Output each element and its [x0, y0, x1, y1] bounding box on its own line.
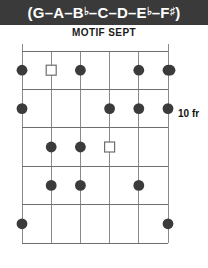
note-dot-s1-f2	[17, 103, 28, 114]
note-dot-s3-f4	[75, 180, 86, 191]
note-dot-s3-f1	[75, 65, 86, 76]
header-bar: (G–A–B♭–C–D–E♭–F♯)	[0, 0, 208, 25]
note-dot-s2-f3	[46, 142, 57, 153]
accidental-sharp: ♯	[170, 5, 176, 17]
fretboard-diagram: 10 fr	[0, 44, 208, 268]
note-dot-s2-f4	[46, 180, 57, 191]
fretboard-svg	[0, 44, 208, 268]
page-title: MOTIF SEPT	[0, 27, 208, 38]
position-marker-dot	[165, 65, 176, 76]
note-dot-s6-f2	[163, 103, 174, 114]
fretboard-grid	[22, 44, 168, 243]
note-dot-s4-f2	[104, 103, 115, 114]
note-dot-s5-f1	[133, 65, 144, 76]
root-square-s2-f1	[46, 65, 56, 75]
position-label: 10 fr	[178, 108, 199, 119]
note-dot-s3-f3	[75, 142, 86, 153]
note-dot-s5-f2	[133, 103, 144, 114]
root-square-s4-f3	[105, 142, 115, 152]
note-dot-s1-f1	[17, 65, 28, 76]
note-dot-s6-f5	[163, 218, 174, 229]
note-dot-s1-f5	[17, 218, 28, 229]
scale-spelling-title: (G–A–B♭–C–D–E♭–F♯)	[28, 5, 181, 20]
position-dot	[165, 65, 176, 76]
accidental-flat: ♭	[147, 5, 152, 17]
note-dot-s5-f4	[133, 180, 144, 191]
accidental-flat: ♭	[84, 5, 89, 17]
